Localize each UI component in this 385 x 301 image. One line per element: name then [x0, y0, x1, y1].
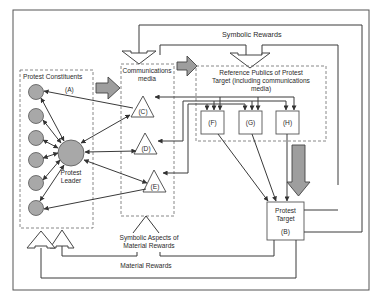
protest-diagram: Symbolic Rewards Protest Constituents (A… [0, 0, 385, 301]
protest-target-label-2: Target [276, 215, 294, 223]
publics-title-1: Reference Publics of Protest [219, 69, 303, 76]
constituents-id: (A) [65, 86, 74, 94]
protest-leader-label-1: Protest [61, 169, 82, 176]
constituent-node [29, 131, 44, 146]
publics-to-target-links [218, 134, 287, 201]
public-node-f-label: (F) [208, 119, 216, 127]
constituents-title: Protest Constituents [23, 73, 83, 80]
publics-to-target-arrow [287, 145, 310, 196]
media-title-1: Communications [122, 67, 172, 74]
media-node-c-label: (C) [138, 108, 147, 116]
public-node-h-label: (H) [283, 119, 292, 127]
media-publics-bus [155, 97, 294, 173]
constituent-node [29, 176, 44, 191]
protest-target-label-1: Protest [275, 207, 296, 214]
symbolic-aspects-label-1: Symbolic Aspects of [119, 234, 178, 242]
protest-leader-node [58, 140, 84, 166]
symbolic-rewards-label: Symbolic Rewards [222, 30, 282, 39]
protest-leader-label-2: Leader [61, 177, 82, 184]
constituent-node [29, 85, 44, 100]
constituent-node [29, 201, 44, 216]
material-rewards-label: Material Rewards [120, 262, 172, 269]
media-node-d-label: (D) [141, 145, 150, 153]
constituent-nodes [29, 85, 44, 216]
public-node-g-label: (G) [246, 119, 256, 127]
protest-target-id: (B) [281, 228, 290, 236]
media-title-2: media [138, 75, 156, 82]
constituents-to-media-arrow [96, 77, 120, 99]
media-node-e-label: (E) [151, 183, 160, 191]
media-to-publics-arrow [177, 56, 197, 76]
symbolic-aspects-label-2: Material Rewards [123, 242, 175, 249]
publics-title-2: Target (including communications [212, 77, 311, 85]
constituent-node [29, 109, 44, 124]
publics-title-3: media) [251, 85, 271, 93]
constituent-node [29, 153, 44, 168]
